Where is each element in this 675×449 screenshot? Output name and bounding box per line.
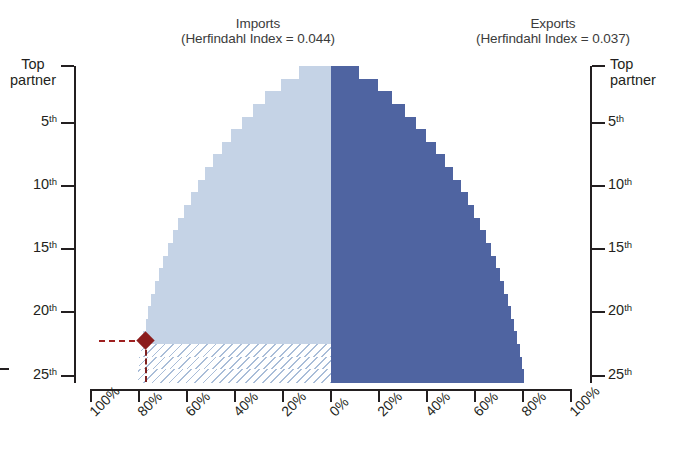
x-tick bbox=[522, 389, 524, 402]
x-tick bbox=[282, 389, 284, 402]
x-tick bbox=[426, 389, 428, 402]
left-edge-stub bbox=[0, 368, 9, 370]
x-tick bbox=[570, 389, 572, 402]
x-tick bbox=[378, 389, 380, 402]
x-tick bbox=[90, 389, 92, 402]
x-tick bbox=[138, 389, 140, 402]
chart-root: Imports (Herfindahl Index = 0.044) Expor… bbox=[0, 0, 675, 449]
x-tick bbox=[186, 389, 188, 402]
x-tick bbox=[330, 389, 332, 402]
x-tick bbox=[234, 389, 236, 402]
x-tick bbox=[474, 389, 476, 402]
x-tick-group: 100%80%60%40%20%0%20%40%60%80%100% bbox=[0, 0, 675, 449]
